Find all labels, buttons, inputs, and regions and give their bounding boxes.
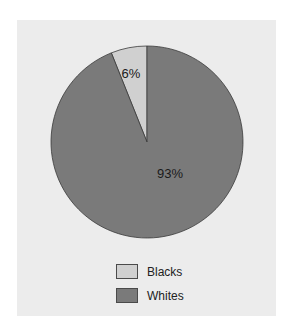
legend-swatch-whites: [116, 288, 138, 303]
legend-label-blacks: Blacks: [147, 265, 182, 279]
pie-slice-whites: [51, 46, 243, 238]
legend-item-blacks: Blacks: [116, 263, 184, 280]
legend-label-whites: Whites: [147, 289, 184, 303]
legend-swatch-blacks: [116, 264, 138, 279]
pie-label-blacks: 6%: [122, 66, 141, 81]
pie-label-whites: 93%: [157, 166, 183, 181]
legend-item-whites: Whites: [116, 287, 184, 304]
legend: Blacks Whites: [116, 263, 184, 311]
